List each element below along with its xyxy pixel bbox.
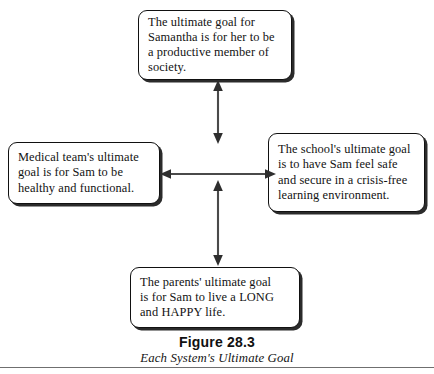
figure-caption: Figure 28.3 Each System's Ultimate Goal <box>0 334 434 366</box>
goal-box-school-text: The school's ultimate goal is to have Sa… <box>269 142 424 203</box>
figure-caption-subtitle: Each System's Ultimate Goal <box>0 351 434 366</box>
goal-box-medical-team-text: Medical team's ultimate goal is for Sam … <box>9 150 159 196</box>
goal-box-samantha-text: The ultimate goal for Samantha is for he… <box>139 15 291 76</box>
double-arrow-icon-vertical-bottom <box>204 180 232 266</box>
goal-box-parents: The parents' ultimate goal is for Sam to… <box>130 267 300 328</box>
figure-diagram: The ultimate goal for Samantha is for he… <box>0 0 434 374</box>
goal-box-medical-team: Medical team's ultimate goal is for Sam … <box>8 142 160 204</box>
goal-box-school: The school's ultimate goal is to have Sa… <box>268 133 425 212</box>
goal-box-parents-text: The parents' ultimate goal is for Sam to… <box>131 275 299 321</box>
figure-caption-title: Figure 28.3 <box>0 334 434 350</box>
double-arrow-icon-vertical-top <box>204 80 232 144</box>
page-divider-rule <box>0 367 434 368</box>
goal-box-samantha: The ultimate goal for Samantha is for he… <box>138 10 292 80</box>
